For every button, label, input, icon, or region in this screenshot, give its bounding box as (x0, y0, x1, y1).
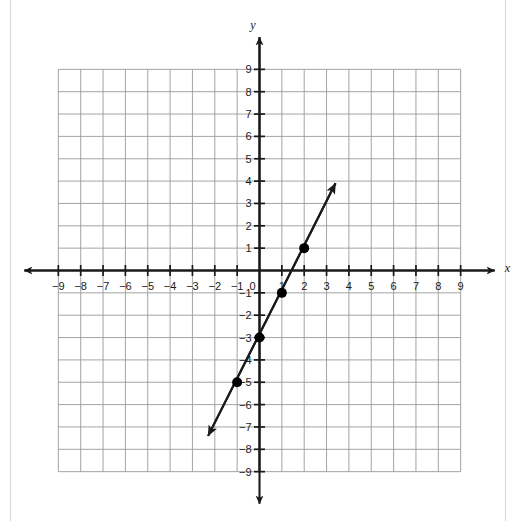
y-tick-label: 8 (245, 86, 251, 98)
y-tick-label: −3 (239, 332, 252, 344)
x-tick-label: −4 (164, 280, 177, 292)
x-tick-label: 9 (458, 280, 464, 292)
axis-names: xy (249, 18, 510, 274)
y-tick-label: 7 (245, 108, 251, 120)
y-tick-label: −9 (239, 466, 252, 478)
y-tick-label: −8 (239, 443, 252, 455)
y-tick-label: 6 (245, 130, 251, 142)
x-tick-label: 4 (346, 280, 352, 292)
x-tick-label: 6 (391, 280, 397, 292)
x-tick-label: −6 (119, 280, 132, 292)
x-tick-label: −2 (209, 280, 222, 292)
y-axis-name: y (249, 18, 256, 32)
y-tick-label: −7 (239, 421, 252, 433)
graph-page: −9−8−7−6−5−4−3−2−10123456789−9−8−7−6−5−4… (0, 0, 519, 521)
y-tick-label: 4 (245, 175, 251, 187)
data-point (299, 243, 309, 253)
y-tick-label: 9 (245, 63, 251, 75)
x-tick-label: 3 (323, 280, 329, 292)
x-tick-label: −7 (97, 280, 110, 292)
y-tick-label: −6 (239, 399, 252, 411)
x-tick-label: −9 (52, 280, 65, 292)
x-tick-label: 8 (435, 280, 441, 292)
data-point (277, 288, 287, 298)
x-tick-label: −8 (74, 280, 87, 292)
x-tick-label: −5 (141, 280, 154, 292)
x-axis-name: x (504, 261, 511, 275)
y-tick-label: 1 (245, 242, 251, 254)
coordinate-plane-chart: −9−8−7−6−5−4−3−2−10123456789−9−8−7−6−5−4… (0, 0, 519, 521)
data-point (232, 377, 242, 387)
x-tick-label: −3 (186, 280, 199, 292)
y-tick-label: −2 (239, 309, 252, 321)
plotted-line (208, 183, 335, 436)
data-point (255, 333, 265, 343)
x-tick-label: 7 (413, 280, 419, 292)
y-tick-label: −1 (239, 287, 252, 299)
x-tick-label: 5 (368, 280, 374, 292)
x-tick-label: 2 (301, 280, 307, 292)
line-segment-up (208, 183, 335, 436)
y-tick-label: 2 (245, 220, 251, 232)
y-tick-label: 5 (245, 153, 251, 165)
axis-lines (24, 37, 494, 503)
y-tick-label: 3 (245, 197, 251, 209)
